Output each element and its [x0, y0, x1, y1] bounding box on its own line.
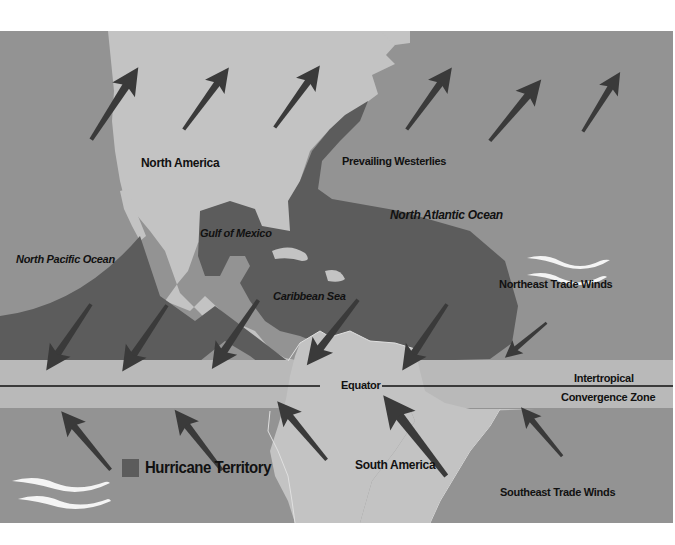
label-north-america: North America	[141, 156, 219, 170]
label-southeast-trade-winds: Southeast Trade Winds	[500, 486, 615, 498]
legend-label: Hurricane Territory	[145, 458, 271, 478]
legend: Hurricane Territory	[122, 458, 288, 478]
label-caribbean-sea: Caribbean Sea	[273, 290, 346, 302]
label-north-atlantic-ocean: North Atlantic Ocean	[390, 208, 503, 222]
waves-icon	[12, 478, 111, 509]
label-north-pacific-ocean: North Pacific Ocean	[16, 253, 115, 265]
label-south-america: South America	[355, 458, 435, 472]
label-gulf-of-mexico: Gulf of Mexico	[200, 227, 272, 239]
hurricane-territory-swatch-icon	[122, 459, 139, 477]
label-convergence-zone: Convergence Zone	[561, 391, 655, 403]
label-northeast-trade-winds: Northeast Trade Winds	[499, 278, 612, 290]
label-prevailing-westerlies: Prevailing Westerlies	[342, 155, 446, 167]
hurricane-map: North America Prevailing Westerlies Nort…	[0, 31, 673, 523]
label-intertropical: Intertropical	[574, 372, 634, 384]
label-equator: Equator	[339, 379, 382, 391]
